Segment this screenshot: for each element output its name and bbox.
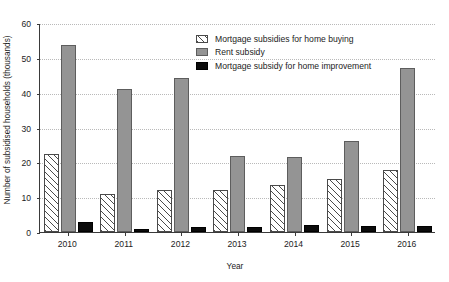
legend-swatch xyxy=(196,62,208,70)
x-axis-title: Year xyxy=(30,261,440,271)
x-tick-label: 2016 xyxy=(377,239,437,249)
x-tick-mark xyxy=(68,232,69,236)
bar[interactable] xyxy=(100,194,115,232)
bar-chart: Number of subsidised households (thousan… xyxy=(0,0,449,282)
x-tick-mark xyxy=(125,232,126,236)
bar[interactable] xyxy=(230,156,245,232)
bar[interactable] xyxy=(61,45,76,232)
x-tick-label: 2011 xyxy=(94,239,154,249)
x-tick-label: 2010 xyxy=(37,239,97,249)
bar-group xyxy=(97,24,154,232)
bar[interactable] xyxy=(191,227,206,232)
bar[interactable] xyxy=(213,190,228,232)
legend: Mortgage subsidies for home buyingRent s… xyxy=(196,32,371,73)
bar[interactable] xyxy=(361,226,376,232)
legend-swatch xyxy=(196,35,208,43)
bar[interactable] xyxy=(304,225,319,232)
x-tick-mark xyxy=(351,232,352,236)
bar[interactable] xyxy=(134,229,149,232)
bar[interactable] xyxy=(344,141,359,232)
x-tick-label: 2015 xyxy=(320,239,380,249)
bar-group-bars xyxy=(40,24,97,232)
x-tick-mark xyxy=(295,232,296,236)
bar[interactable] xyxy=(44,154,59,232)
bar[interactable] xyxy=(417,226,432,232)
x-tick-label: 2014 xyxy=(264,239,324,249)
x-tick-mark xyxy=(408,232,409,236)
bar[interactable] xyxy=(383,170,398,232)
legend-item[interactable]: Mortgage subsidies for home buying xyxy=(196,32,371,46)
legend-item[interactable]: Mortgage subsidy for home improvement xyxy=(196,59,371,73)
bar-group xyxy=(379,24,436,232)
bar-group-bars xyxy=(97,24,154,232)
bar[interactable] xyxy=(287,157,302,232)
bar[interactable] xyxy=(78,222,93,232)
legend-item[interactable]: Rent subsidy xyxy=(196,46,371,60)
legend-label: Rent subsidy xyxy=(215,47,265,57)
legend-label: Mortgage subsidy for home improvement xyxy=(215,61,371,71)
bar-group xyxy=(40,24,97,232)
bar-group-bars xyxy=(379,24,436,232)
bar[interactable] xyxy=(270,185,285,232)
bar[interactable] xyxy=(247,227,262,232)
bar[interactable] xyxy=(327,179,342,232)
bar[interactable] xyxy=(157,190,172,232)
x-tick-label: 2013 xyxy=(207,239,267,249)
y-axis-title: Number of subsidised households (thousan… xyxy=(0,0,14,240)
bar[interactable] xyxy=(117,89,132,233)
legend-swatch xyxy=(196,48,208,56)
legend-label: Mortgage subsidies for home buying xyxy=(215,34,354,44)
y-tick-mark xyxy=(37,233,41,234)
x-tick-mark xyxy=(181,232,182,236)
bar[interactable] xyxy=(400,68,415,232)
x-tick-label: 2012 xyxy=(150,239,210,249)
bar[interactable] xyxy=(174,78,189,232)
x-tick-mark xyxy=(238,232,239,236)
